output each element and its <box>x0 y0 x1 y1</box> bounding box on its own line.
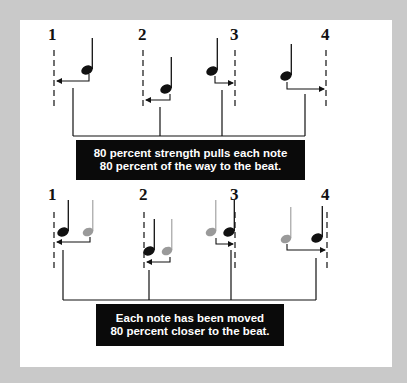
bottom-beat-labels: 1 2 3 4 <box>48 185 330 204</box>
arrow-left-icon <box>146 94 170 100</box>
beat-label-4: 4 <box>321 185 330 204</box>
bottom-bracket <box>63 250 316 300</box>
top-bracket <box>73 88 305 136</box>
arrow-right-icon <box>216 238 233 244</box>
quarter-note-icon <box>80 38 95 76</box>
quarter-note-gray-icon <box>204 200 217 238</box>
beat-label-3: 3 <box>230 25 239 44</box>
top-notes <box>80 38 294 95</box>
arrow-left-icon <box>147 257 170 262</box>
beat-label-2: 2 <box>138 25 147 44</box>
quarter-note-icon <box>222 200 237 238</box>
quarter-note-icon <box>159 57 174 95</box>
quarter-note-gray-icon <box>160 219 173 257</box>
beat-label-1: 1 <box>48 25 57 44</box>
top-caption: 80 percent strength pulls each note 80 p… <box>76 140 305 180</box>
top-beat-labels: 1 2 3 4 <box>48 25 330 44</box>
quarter-note-icon <box>205 38 220 77</box>
bottom-caption-line-1: Each note has been moved <box>96 312 284 325</box>
original-notes-gray <box>81 200 292 257</box>
beat-label-1: 1 <box>48 185 57 204</box>
quarter-note-gray-icon <box>81 200 94 238</box>
beat-label-4: 4 <box>321 25 330 44</box>
top-caption-line-1: 80 percent strength pulls each note <box>76 147 305 160</box>
top-caption-line-2: 80 percent of the way to the beat. <box>76 160 305 173</box>
arrow-right-icon <box>287 82 324 89</box>
arrow-left-icon <box>57 74 89 81</box>
beat-label-2: 2 <box>139 185 148 204</box>
bottom-caption: Each note has been moved 80 percent clos… <box>96 304 284 346</box>
quarter-note-icon <box>310 206 325 244</box>
quantized-notes-black <box>56 200 325 257</box>
arrow-right-icon <box>287 244 325 250</box>
bottom-caption-line-2: 80 percent closer to the beat. <box>96 325 284 338</box>
quarter-note-icon <box>56 200 71 238</box>
arrow-left-icon <box>57 237 90 242</box>
quarter-note-gray-icon <box>279 207 292 245</box>
quarter-note-icon <box>279 44 294 82</box>
arrow-right-icon <box>215 76 233 83</box>
